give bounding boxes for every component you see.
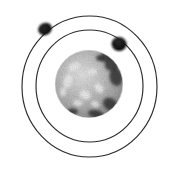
nucleus-highlight-6 [60, 88, 66, 96]
nucleus-dark-patch-6 [96, 55, 104, 61]
bohr-atom-figure: Bohr model of the atom [0, 0, 175, 172]
atom-diagram-canvas [0, 0, 175, 172]
